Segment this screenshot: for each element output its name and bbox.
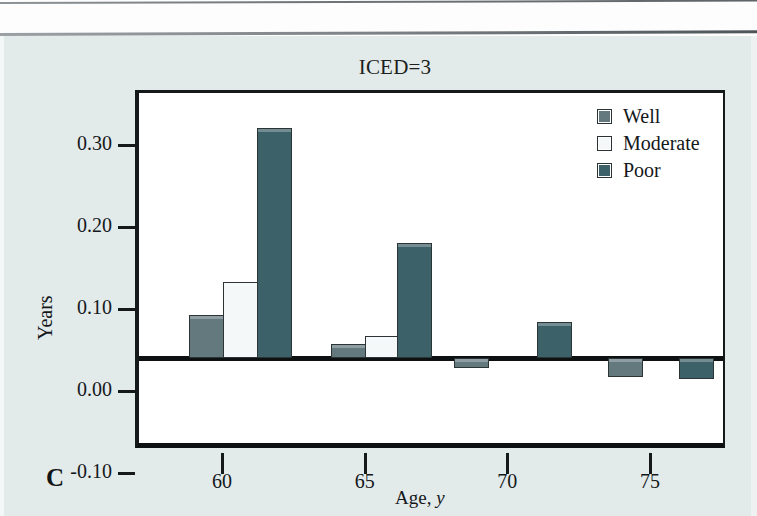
legend-label: Poor: [623, 159, 661, 182]
legend-item-poor: Poor: [597, 157, 700, 184]
x-tick-label: 65: [355, 470, 375, 493]
empty-square-icon: [597, 136, 612, 151]
x-axis-ticks: 60657075: [0, 0, 757, 516]
legend-swatch-fill: [599, 165, 610, 176]
x-tick-label: 60: [212, 470, 232, 493]
y-axis-title: Years: [34, 295, 57, 340]
x-tick-label: 75: [640, 470, 660, 493]
legend-label: Moderate: [623, 132, 700, 155]
x-axis-title-unit: y: [436, 487, 444, 508]
chart-legend: WellModeratePoor: [597, 103, 700, 184]
x-tick-label: 70: [497, 470, 517, 493]
filled-square-icon: [597, 109, 612, 124]
legend-item-moderate: Moderate: [597, 130, 700, 157]
legend-swatch-fill: [599, 111, 610, 122]
legend-item-well: Well: [597, 103, 700, 130]
legend-label: Well: [623, 105, 660, 128]
filled-square-icon: [597, 163, 612, 178]
x-axis-title: Age, y: [395, 487, 445, 509]
legend-swatch-fill: [599, 138, 610, 149]
